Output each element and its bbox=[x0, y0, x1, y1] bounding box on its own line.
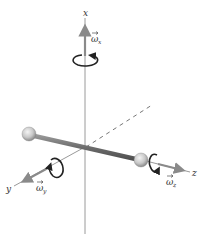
omega-y-label: ω y bbox=[36, 181, 47, 196]
svg-text:x: x bbox=[98, 38, 102, 45]
rotation-y-arrow-icon bbox=[50, 158, 63, 177]
omega-x-label: ω x bbox=[91, 32, 102, 46]
z-axis-label: z bbox=[191, 168, 197, 178]
rotation-axes-diagram: x ω x y ω y z ω z bbox=[0, 0, 206, 241]
left-sphere bbox=[22, 127, 36, 141]
omega-z-vector bbox=[158, 164, 180, 170]
y-axis-label: y bbox=[5, 184, 12, 194]
x-axis-label: x bbox=[83, 8, 88, 18]
dashed-axis-line bbox=[86, 105, 152, 147]
svg-text:z: z bbox=[172, 181, 177, 188]
omega-z-label: ω z bbox=[166, 175, 177, 189]
omega-y-vector bbox=[26, 168, 48, 180]
svg-text:y: y bbox=[42, 187, 47, 195]
right-sphere bbox=[134, 153, 148, 167]
